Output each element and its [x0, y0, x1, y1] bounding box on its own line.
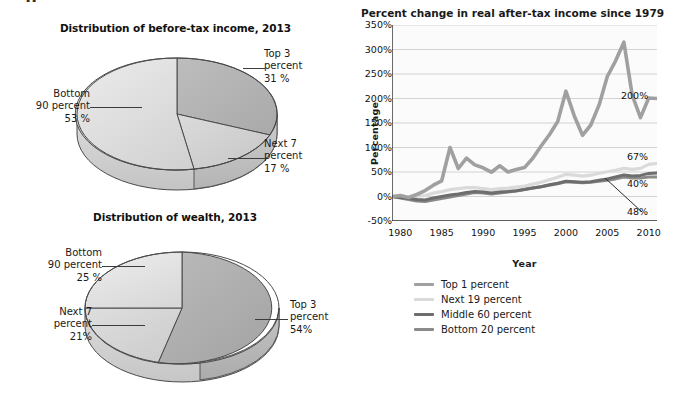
pie-1-label-top3-l3: 31 % [264, 73, 289, 84]
pie-2-label-next7-l1: Next 7 [59, 306, 92, 317]
pie-2-leader-top-3 [255, 319, 288, 320]
pie-2-label-next7-l2: percent [54, 318, 92, 329]
x-tick-2000: 2000 [554, 227, 578, 238]
annotation-200-percent: 200% [621, 90, 648, 101]
y-tick-100: 100% [352, 142, 392, 153]
pie-1-label-top3-l1: Top 3 [264, 48, 290, 59]
pie-2-label-next-7-percent: Next 7 percent 21% [0, 306, 92, 343]
pie-2-label-top3-l1: Top 3 [290, 299, 316, 310]
pie-1-label-bot90-l3: 53 % [65, 113, 90, 124]
annotation-48-percent: 48% [627, 206, 648, 217]
annotation-40-percent: 40% [627, 178, 648, 189]
pie-2-label-top3-l3: 54% [290, 324, 312, 335]
pie-1-title: Distribution of before-tax income, 2013 [60, 22, 290, 34]
line-chart-title: Percent change in real after-tax income … [352, 7, 673, 19]
y-tick-neg50: -50% [352, 215, 392, 226]
annotation-67-percent: 67% [627, 151, 648, 162]
pie-2-label-bot90-l2: 90 percent [48, 259, 102, 270]
legend-item-bottom-20-percent: Bottom 20 percent [414, 322, 654, 337]
y-tick-300: 300% [352, 44, 392, 55]
pie-1-label-next-7-percent: Next 7 percent 17 % [264, 138, 302, 175]
legend-item-top-1-percent: Top 1 percent [414, 277, 654, 292]
pie-1-svg [72, 42, 282, 190]
pie-2-title: Distribution of wealth, 2013 [80, 211, 270, 223]
x-tick-1980: 1980 [388, 227, 412, 238]
legend-swatch-top-1-percent [414, 283, 434, 286]
pie-1-leader-next-7 [228, 158, 265, 159]
legend-swatch-bottom-20-percent [414, 328, 434, 331]
x-tick-1985: 1985 [430, 227, 454, 238]
y-tick-350: 350% [352, 19, 392, 30]
legend-item-next-19-percent: Next 19 percent [414, 292, 654, 307]
pie-2-leader-next-7 [92, 325, 145, 326]
y-tick-200: 200% [352, 93, 392, 104]
pie-2-label-bottom-90-percent: Bottom 90 percent 25 % [0, 247, 102, 284]
y-tick-250: 250% [352, 68, 392, 79]
line-chart-percent-change: Percent change in real after-tax income … [352, 0, 679, 399]
line-chart-y-ticks: 350% 300% 250% 200% 150% 100% 50% 0% -50… [348, 25, 392, 221]
legend-label-middle-60-percent: Middle 60 percent [441, 309, 531, 320]
line-chart-legend: Top 1 percent Next 19 percent Middle 60 … [414, 277, 654, 337]
pie-2-label-bot90-l1: Bottom [65, 247, 102, 258]
pie-1-label-next7-l2: percent [264, 150, 302, 161]
y-tick-150: 150% [352, 117, 392, 128]
x-tick-1990: 1990 [471, 227, 495, 238]
pie-2-label-bot90-l3: 25 % [77, 272, 102, 283]
pie-1-label-top-3-percent: Top 3 percent 31 % [264, 48, 302, 85]
x-tick-1995: 1995 [512, 227, 536, 238]
legend-swatch-middle-60-percent [414, 313, 434, 316]
line-chart-x-ticks: 1980 1985 1990 1995 2000 2005 2010 [392, 227, 657, 241]
x-tick-2010: 2010 [637, 227, 661, 238]
pie-2-leader-bottom-90 [102, 266, 145, 267]
pie-2-label-next7-l3: 21% [70, 331, 92, 342]
pie-1-leader-bottom-90 [90, 107, 142, 108]
scan-artifact-glyph: g [26, 0, 37, 2]
legend-label-bottom-20-percent: Bottom 20 percent [441, 324, 535, 335]
pie-chart-wealth [82, 238, 282, 382]
line-chart-svg [392, 25, 657, 221]
line-chart-plot-area [392, 25, 657, 221]
legend-swatch-next-19-percent [414, 298, 434, 301]
pie-1-label-next7-l3: 17 % [264, 163, 289, 174]
pie-2-label-top-3-percent: Top 3 percent 54% [290, 299, 328, 336]
legend-label-top-1-percent: Top 1 percent [441, 279, 509, 290]
pie-1-label-bottom-90-percent: Bottom 90 percent 53 % [0, 88, 90, 125]
figure-root: g Distribution of before-tax income, 201… [0, 0, 679, 399]
x-tick-2005: 2005 [595, 227, 619, 238]
pie-1-label-bot90-l2: 90 percent [36, 100, 90, 111]
line-chart-x-axis-label: Year [393, 258, 656, 269]
pie-2-label-top3-l2: percent [290, 311, 328, 322]
pie-1-label-bot90-l1: Bottom [53, 88, 90, 99]
pie-1-label-next7-l1: Next 7 [264, 138, 297, 149]
y-tick-50: 50% [352, 166, 392, 177]
pie-1-leader-top-3 [243, 68, 265, 69]
pie-1-label-top3-l2: percent [264, 60, 302, 71]
pie-chart-before-tax-income [72, 42, 282, 190]
legend-item-middle-60-percent: Middle 60 percent [414, 307, 654, 322]
pie-2-svg [82, 238, 282, 382]
legend-label-next-19-percent: Next 19 percent [441, 294, 522, 305]
y-tick-0: 0% [352, 191, 392, 202]
